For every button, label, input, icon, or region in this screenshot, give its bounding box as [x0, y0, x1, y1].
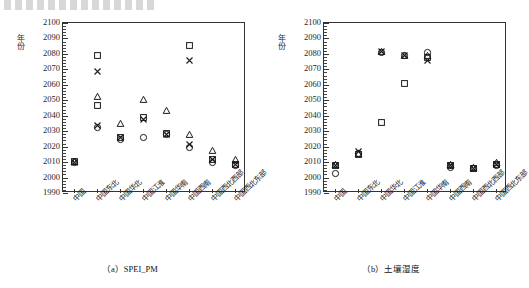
y-axis-minor-tick: [324, 42, 327, 43]
y-axis-minor-tick: [324, 26, 327, 27]
y-axis-minor-tick: [63, 106, 66, 107]
y-axis-minor-tick: [324, 125, 327, 126]
y-axis-minor-tick: [63, 168, 66, 169]
y-axis-minor-tick: [324, 168, 327, 169]
y-axis-minor-tick: [63, 57, 66, 58]
y-axis-tick: [324, 147, 329, 148]
y-axis-tick-label: 2020: [43, 142, 60, 150]
y-axis-tick: [324, 54, 329, 55]
y-axis-minor-tick: [324, 51, 327, 52]
y-axis-minor-tick: [63, 165, 66, 166]
y-axis-tick-label: 2100: [43, 18, 60, 26]
y-axis-tick-label: 2000: [304, 173, 321, 181]
y-axis-tick: [63, 178, 68, 179]
y-axis-minor-tick: [324, 190, 327, 191]
y-axis-tick: [324, 100, 329, 101]
y-axis-minor-tick: [324, 181, 327, 182]
y-axis-minor-tick: [324, 106, 327, 107]
y-axis-tick: [324, 38, 329, 39]
y-axis-minor-tick: [324, 171, 327, 172]
y-axis-tick-label: 2080: [304, 49, 321, 57]
y-axis-minor-tick: [324, 119, 327, 120]
y-axis-tick: [63, 162, 68, 163]
y-axis-minor-tick: [324, 137, 327, 138]
y-axis-minor-tick: [63, 119, 66, 120]
y-axis-minor-tick: [63, 125, 66, 126]
y-axis-minor-tick: [63, 184, 66, 185]
y-axis-minor-tick: [63, 181, 66, 182]
y-axis-tick: [63, 69, 68, 70]
y-axis-minor-tick: [63, 79, 66, 80]
y-axis-tick: [63, 54, 68, 55]
y-axis-minor-tick: [324, 103, 327, 104]
y-axis-minor-tick: [324, 48, 327, 49]
y-axis-minor-tick: [324, 156, 327, 157]
y-axis-tick-label: 2030: [304, 126, 321, 134]
y-axis-tick: [63, 85, 68, 86]
y-axis-minor-tick: [324, 113, 327, 114]
y-axis-minor-tick: [63, 42, 66, 43]
y-axis-minor-tick: [63, 76, 66, 77]
y-axis-label: 年份: [14, 34, 25, 50]
y-axis-minor-tick: [324, 88, 327, 89]
y-axis-minor-tick: [63, 45, 66, 46]
y-axis-tick-label: 2040: [304, 111, 321, 119]
y-axis-tick: [63, 100, 68, 101]
y-axis-tick-label: 2090: [304, 33, 321, 41]
y-axis-minor-tick: [63, 110, 66, 111]
y-axis-minor-tick: [324, 45, 327, 46]
y-axis-minor-tick: [63, 140, 66, 141]
y-axis-minor-tick: [324, 159, 327, 160]
y-axis-minor-tick: [63, 82, 66, 83]
y-axis-tick-label: 2010: [43, 157, 60, 165]
y-axis-tick: [324, 178, 329, 179]
y-axis-tick-label: 2000: [43, 173, 60, 181]
y-axis-minor-tick: [324, 72, 327, 73]
y-axis-tick-label: 2060: [43, 80, 60, 88]
y-axis-minor-tick: [324, 91, 327, 92]
y-axis-tick: [63, 193, 68, 194]
y-axis-tick: [63, 116, 68, 117]
y-axis-minor-tick: [324, 174, 327, 175]
y-axis-tick-label: 2050: [304, 95, 321, 103]
y-axis-minor-tick: [63, 113, 66, 114]
y-axis-minor-tick: [324, 122, 327, 123]
y-axis-minor-tick: [324, 57, 327, 58]
y-axis-minor-tick: [324, 63, 327, 64]
y-axis-minor-tick: [324, 82, 327, 83]
y-axis-tick-label: 2040: [43, 111, 60, 119]
y-axis-tick: [324, 162, 329, 163]
y-axis-minor-tick: [324, 150, 327, 151]
y-axis-minor-tick: [324, 140, 327, 141]
y-axis-minor-tick: [63, 103, 66, 104]
y-axis-minor-tick: [63, 66, 66, 67]
y-axis-minor-tick: [63, 128, 66, 129]
y-axis-minor-tick: [63, 48, 66, 49]
y-axis-minor-tick: [324, 165, 327, 166]
y-axis-minor-tick: [63, 97, 66, 98]
y-axis-tick: [324, 69, 329, 70]
y-axis-minor-tick: [63, 190, 66, 191]
y-axis-tick: [324, 116, 329, 117]
y-axis-minor-tick: [63, 60, 66, 61]
y-axis-minor-tick: [63, 134, 66, 135]
y-axis-minor-tick: [63, 159, 66, 160]
y-axis-minor-tick: [324, 35, 327, 36]
y-axis-tick: [63, 131, 68, 132]
y-axis-minor-tick: [63, 174, 66, 175]
y-axis-tick: [324, 193, 329, 194]
y-axis-tick-label: 2070: [304, 64, 321, 72]
y-axis-minor-tick: [63, 91, 66, 92]
y-axis-minor-tick: [324, 134, 327, 135]
y-axis-tick-label: 2020: [304, 142, 321, 150]
y-axis-tick-label: 2070: [43, 64, 60, 72]
y-axis-tick: [63, 147, 68, 148]
y-axis-minor-tick: [63, 72, 66, 73]
y-axis-minor-tick: [63, 171, 66, 172]
y-axis-minor-tick: [324, 94, 327, 95]
y-axis-minor-tick: [63, 51, 66, 52]
y-axis-minor-tick: [324, 79, 327, 80]
y-axis-label: 年份: [275, 34, 286, 50]
plot-area-b: [323, 22, 506, 192]
